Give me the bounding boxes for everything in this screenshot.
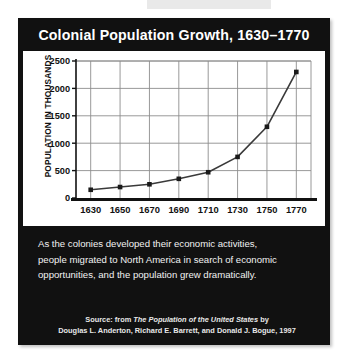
data-point-marker [235,155,240,160]
y-axis-tick-label: 1000 [50,139,70,149]
source-prefix: Source: from [85,315,133,324]
x-axis-tick-label: 1670 [139,204,160,215]
data-point-marker [88,187,93,192]
data-point-marker [147,182,152,187]
x-axis-tick-label: 1650 [110,204,131,215]
infographic-poster: Colonial Population Growth, 1630–1770 PO… [18,18,330,345]
data-point-marker [206,170,211,175]
y-axis-tick-label: 0 [65,193,70,203]
x-axis-tick-label: 1630 [80,204,101,215]
x-axis-tick-label: 1710 [198,204,219,215]
data-point-marker [177,177,182,182]
caption-line-2: people migrated to North America in sear… [38,252,312,268]
source-line-1: Source: from The Population of the Unite… [46,314,308,325]
caption-line-1: As the colonies developed their economic… [38,236,312,252]
source-credit: Source: from The Population of the Unite… [46,314,308,337]
source-line-2: Douglas L. Anderton, Richard E. Barrett,… [46,325,308,336]
chart-inner: POPULATION IN THOUSANDS 0500100015002000… [23,51,325,226]
data-point-marker [118,185,123,190]
source-book-title: The Population of the United States [133,315,258,324]
scan-artifact-band [147,0,271,9]
plot-area-background [76,61,311,198]
y-axis-tick-label: 1500 [50,111,70,121]
caption-line-3: opportunities, and the population grew d… [38,267,312,283]
source-suffix: by [258,315,269,324]
y-axis-tick-label: 500 [55,166,70,176]
x-axis-tick-label: 1730 [227,204,248,215]
x-axis-tick-label: 1690 [168,204,189,215]
page-title: Colonial Population Growth, 1630–1770 [18,18,330,52]
x-axis-tick-label: 1770 [286,204,307,215]
y-axis-tick-label: 2500 [50,56,70,66]
caption-text: As the colonies developed their economic… [38,236,312,283]
data-point-marker [265,124,270,129]
y-axis-tick-label: 2000 [50,84,70,94]
chart-panel: POPULATION IN THOUSANDS 0500100015002000… [23,51,325,226]
x-axis-tick-label: 1750 [257,204,278,215]
line-chart-svg: 0500100015002000250016301650167016901710… [23,51,325,226]
data-point-marker [294,70,299,75]
